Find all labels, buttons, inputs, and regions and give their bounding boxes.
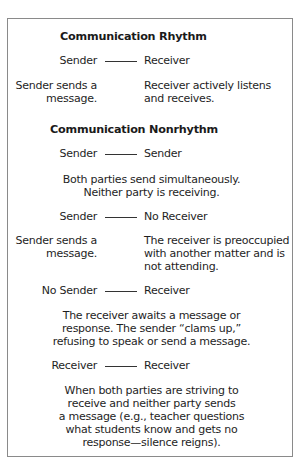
desc-line: Sender sends a (16, 79, 97, 92)
pair-left-label: Receiver (51, 359, 97, 373)
connector-line (105, 61, 137, 62)
desc-line: refusing to speak or send a message. (0, 335, 303, 348)
connector-line (105, 217, 137, 218)
desc-line: what students know and gets no (0, 423, 303, 436)
desc-line: Neither party is receiving. (0, 186, 303, 199)
pair-left-label: Sender (60, 147, 98, 161)
pair-sender-receiver: Sender Receiver (0, 54, 303, 68)
left-description: Sender sends a message. (16, 79, 97, 105)
pair-no-sender-receiver: No Sender Receiver (0, 284, 303, 298)
pair-sender-sender: Sender Sender (0, 147, 303, 161)
desc-line: receive and neither party sends (0, 397, 303, 410)
desc-line: message. (16, 92, 97, 105)
desc-line: When both parties are striving to (0, 384, 303, 397)
pair-right-label: No Receiver (144, 210, 207, 224)
connector-line (105, 366, 137, 367)
pair-left-label: Sender (60, 54, 98, 68)
centered-description: The receiver awaits a message or respons… (0, 309, 303, 348)
left-description: Sender sends a message. (16, 234, 97, 260)
pair-right-label: Receiver (144, 54, 190, 68)
desc-line: Sender sends a (16, 234, 97, 247)
pair-right-label: Receiver (144, 284, 190, 298)
pair-right-label: Sender (144, 147, 182, 161)
desc-line: message. (16, 247, 97, 260)
centered-description: When both parties are striving to receiv… (0, 384, 303, 449)
pair-left-label: No Sender (42, 284, 97, 298)
connector-line (105, 291, 137, 292)
section-title-rhythm: Communication Rhythm (60, 30, 207, 43)
pair-right-label: Receiver (144, 359, 190, 373)
pair-receiver-receiver: Receiver Receiver (0, 359, 303, 373)
right-description: The receiver is preoccupied with another… (144, 234, 289, 273)
desc-line: Both parties send simultaneously. (0, 173, 303, 186)
pair-left-label: Sender (60, 210, 98, 224)
desc-line: not attending. (144, 260, 289, 273)
desc-line: response. The sender “clams up,” (0, 322, 303, 335)
desc-line: response—silence reigns). (0, 436, 303, 449)
desc-line: The receiver awaits a message or (0, 309, 303, 322)
pair-sender-no-receiver: Sender No Receiver (0, 210, 303, 224)
desc-line: Receiver actively listens (144, 79, 271, 92)
right-description: Receiver actively listens and receives. (144, 79, 271, 105)
desc-line: and receives. (144, 92, 271, 105)
connector-line (105, 154, 137, 155)
desc-line: a message (e.g., teacher questions (0, 410, 303, 423)
desc-line: with another matter and is (144, 247, 289, 260)
desc-line: The receiver is preoccupied (144, 234, 289, 247)
section-title-nonrhythm: Communication Nonrhythm (50, 123, 218, 136)
centered-description: Both parties send simultaneously. Neithe… (0, 173, 303, 199)
